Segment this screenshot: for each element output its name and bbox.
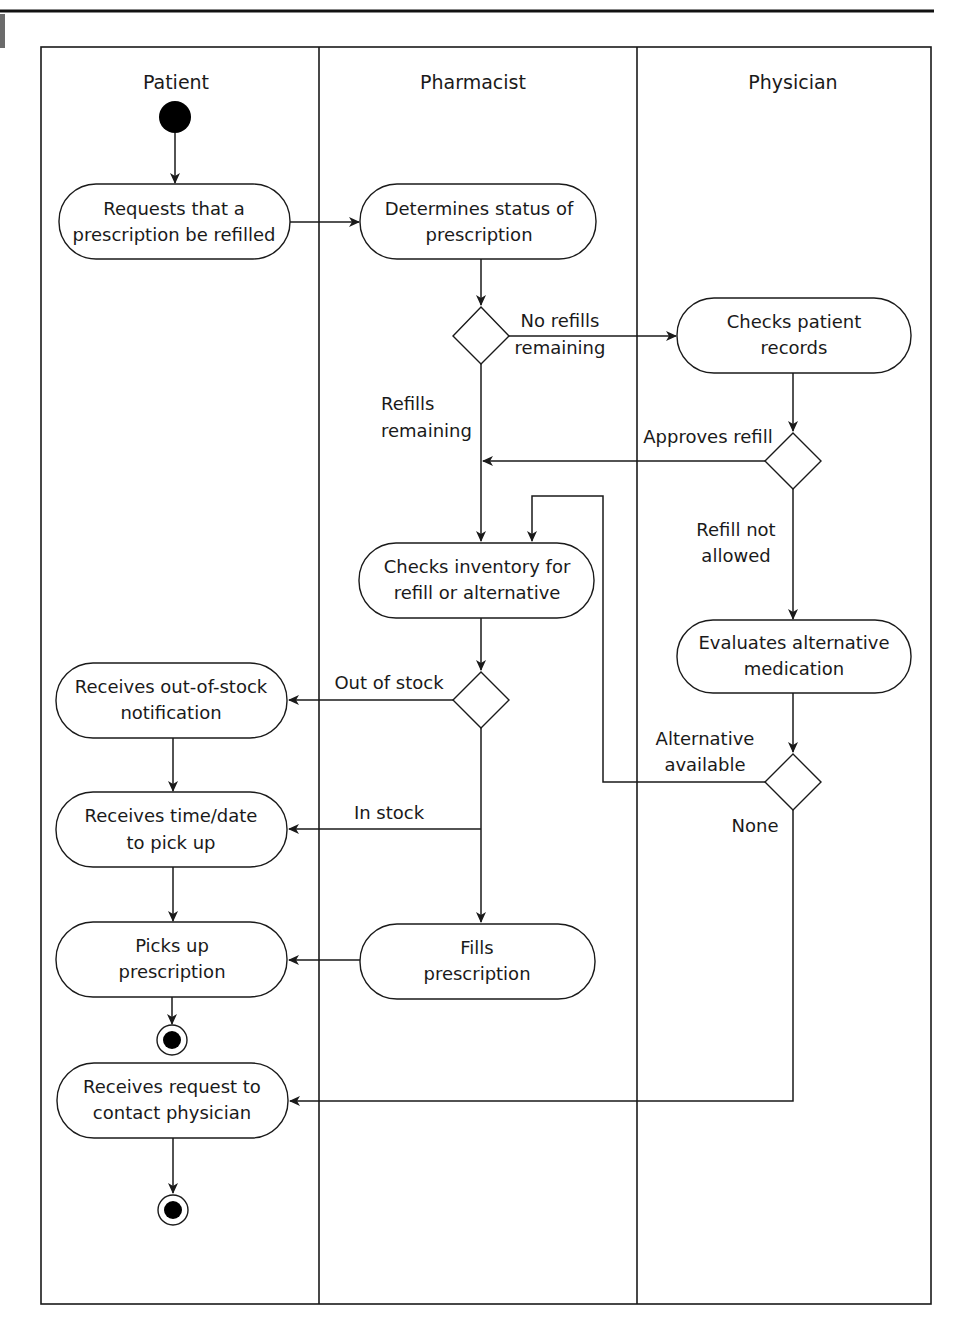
svg-text:Receives time/date: Receives time/date bbox=[85, 805, 258, 826]
guard-alternative-available-2: available bbox=[664, 754, 745, 775]
decision-alternative-icon bbox=[765, 754, 821, 810]
activity-request-refill: Requests that a prescription be refilled bbox=[59, 184, 290, 259]
guard-no-refills-2: remaining bbox=[515, 337, 606, 358]
svg-text:prescription: prescription bbox=[423, 963, 530, 984]
svg-text:prescription: prescription bbox=[118, 961, 225, 982]
guard-none: None bbox=[732, 815, 779, 836]
activity-contact-physician: Receives request to contact physician bbox=[57, 1063, 288, 1138]
initial-node-icon bbox=[159, 101, 191, 133]
svg-text:to pick up: to pick up bbox=[126, 832, 215, 853]
guard-out-of-stock: Out of stock bbox=[334, 672, 444, 693]
decision-stock-icon bbox=[453, 672, 509, 728]
svg-text:Picks up: Picks up bbox=[135, 935, 209, 956]
activity-check-records: Checks patient records bbox=[677, 298, 911, 373]
guard-alternative-available: Alternative bbox=[656, 728, 755, 749]
guard-refills-remaining-2: remaining bbox=[381, 420, 472, 441]
guard-in-stock: In stock bbox=[354, 802, 425, 823]
final-node-1-icon bbox=[157, 1025, 187, 1055]
activity-evaluate-alternative: Evaluates alternative medication bbox=[677, 620, 911, 693]
activity-receive-pickup-time: Receives time/date to pick up bbox=[56, 792, 287, 867]
svg-text:Checks patient: Checks patient bbox=[727, 311, 862, 332]
guard-refill-not-allowed-2: allowed bbox=[701, 545, 770, 566]
page-edge-tab bbox=[0, 14, 5, 48]
svg-text:records: records bbox=[761, 337, 828, 358]
svg-text:Checks inventory for: Checks inventory for bbox=[384, 556, 571, 577]
svg-text:refill or alternative: refill or alternative bbox=[394, 582, 561, 603]
activity-determine-status: Determines status of prescription bbox=[360, 184, 596, 259]
svg-text:Determines status of: Determines status of bbox=[385, 198, 574, 219]
svg-text:contact physician: contact physician bbox=[93, 1102, 251, 1123]
svg-text:Requests that a: Requests that a bbox=[103, 198, 245, 219]
decision-refills-icon bbox=[453, 307, 509, 364]
svg-text:Fills: Fills bbox=[460, 937, 493, 958]
svg-text:prescription be refilled: prescription be refilled bbox=[73, 224, 276, 245]
lane-title-physician: Physician bbox=[748, 71, 837, 93]
svg-text:Evaluates alternative: Evaluates alternative bbox=[698, 632, 889, 653]
guard-approves-refill: Approves refill bbox=[643, 426, 772, 447]
activity-pick-up-prescription: Picks up prescription bbox=[56, 922, 287, 997]
lane-title-pharmacist: Pharmacist bbox=[420, 71, 526, 93]
guard-refills-remaining: Refills bbox=[381, 393, 435, 414]
guard-no-refills: No refills bbox=[521, 310, 600, 331]
activity-out-of-stock-notification: Receives out-of-stock notification bbox=[56, 663, 287, 738]
svg-text:notification: notification bbox=[120, 702, 221, 723]
lane-title-patient: Patient bbox=[143, 71, 209, 93]
svg-text:medication: medication bbox=[744, 658, 844, 679]
svg-text:prescription: prescription bbox=[425, 224, 532, 245]
activity-fill-prescription: Fills prescription bbox=[360, 924, 595, 999]
activity-check-inventory: Checks inventory for refill or alternati… bbox=[359, 543, 594, 618]
decision-approval-icon bbox=[765, 433, 821, 489]
guard-refill-not-allowed: Refill not bbox=[696, 519, 775, 540]
final-node-2-icon bbox=[158, 1195, 188, 1225]
svg-text:Receives request to: Receives request to bbox=[83, 1076, 261, 1097]
svg-text:Receives out-of-stock: Receives out-of-stock bbox=[75, 676, 268, 697]
activity-diagram: Patient Pharmacist Physician Requests th… bbox=[0, 0, 964, 1344]
